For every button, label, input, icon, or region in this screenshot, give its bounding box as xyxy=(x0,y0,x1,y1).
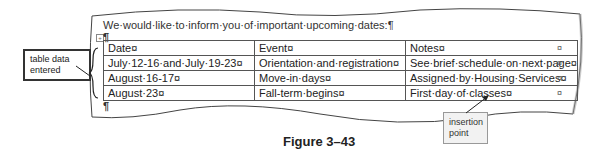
callout-lines xyxy=(0,0,596,153)
figure-caption: Figure 3–43 xyxy=(283,134,355,149)
